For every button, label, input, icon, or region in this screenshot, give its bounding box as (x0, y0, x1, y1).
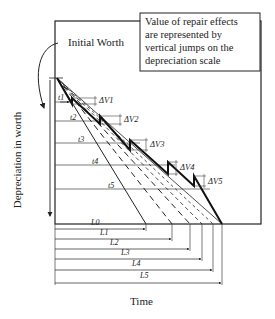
y-axis-label: Depreciation in worth (11, 105, 23, 215)
life-arrows (55, 229, 221, 283)
callout-text: Value of repair effects are represented … (145, 15, 261, 67)
life-label-l4: L4 (132, 259, 140, 268)
life-drop-lines (55, 224, 222, 285)
life-label-l1: L1 (100, 228, 108, 237)
repair-jump-dv2: ΔV2 (124, 114, 138, 124)
x-axis-label: Time (130, 295, 153, 307)
depreciation-lines (57, 78, 222, 224)
repair-jump-dv5: ΔV5 (208, 176, 222, 186)
callout-line-1: Value of repair effects (145, 15, 261, 28)
interval-label-t4: t4 (92, 157, 98, 166)
repair-jump-markers (72, 96, 206, 188)
repair-jump-dv4: ΔV4 (180, 162, 194, 172)
interval-label-t3: t3 (78, 135, 84, 144)
life-label-l0: L0 (91, 218, 99, 227)
callout-line-3: vertical jumps on the (145, 41, 261, 54)
initial-worth-label: Initial Worth (68, 36, 124, 48)
life-label-l3: L3 (121, 248, 129, 257)
repair-jump-dv3: ΔV3 (150, 139, 164, 149)
repair-jump-dv1: ΔV1 (99, 95, 113, 105)
interval-label-t5: t5 (108, 181, 114, 190)
life-label-l5: L5 (140, 271, 148, 280)
life-label-l2: L2 (110, 238, 118, 247)
interval-label-t2: t2 (70, 113, 76, 122)
callout-line-4: depreciation scale (145, 54, 261, 67)
callout-line-2: are represented by (145, 28, 261, 41)
interval-label-t1: t1 (58, 93, 64, 102)
